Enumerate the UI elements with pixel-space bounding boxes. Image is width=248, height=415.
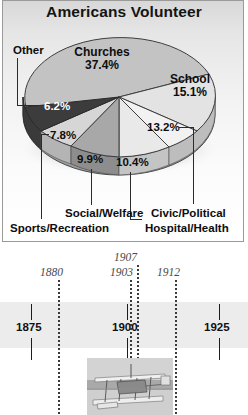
pie-label-civic-value: 13.2% (147, 121, 180, 133)
pie-label-hospital-value: 10.4% (116, 156, 149, 168)
timeline-tick-1900-top (127, 304, 128, 320)
leader-line-sports-stub (41, 134, 49, 135)
leader-line-hospital-horizontal (130, 219, 142, 220)
leader-line-civic-vertical (193, 127, 194, 204)
pie-label-school-value: 15.1% (161, 86, 219, 99)
pie-label-school: School 15.1% (161, 73, 219, 99)
biplane-photo-graphic (87, 358, 173, 415)
timeline-year-1875: 1875 (16, 321, 42, 333)
timeline-tick-1925-top (219, 304, 220, 320)
timeline-marker-label-1903: 1903 (110, 266, 133, 278)
category-label-hospital-health: Hospital/Health (145, 222, 229, 234)
timeline-tick-1925-bottom (219, 338, 220, 360)
pie-label-sports-value: 7.8% (50, 129, 76, 141)
pie-label-churches-value: 37.4% (63, 59, 141, 72)
timeline-marker-label-1912: 1912 (157, 266, 180, 278)
timeline-year-1925: 1925 (204, 321, 230, 333)
timeline-tick-1900-bottom (127, 338, 128, 360)
timeline-tick-1875-top (31, 304, 32, 320)
pie-label-school-name: School (161, 73, 219, 86)
leader-line-other-vertical (17, 58, 18, 105)
pie-label-churches-name: Churches (63, 46, 141, 59)
timeline: 1875 1900 1925 1880 1907 1903 1912 (0, 246, 248, 415)
category-label-social-welfare: Social/Welfare (65, 207, 143, 219)
pie-label-other: Other (13, 44, 44, 56)
timeline-marker-label-1880: 1880 (40, 266, 63, 278)
pie-label-churches: Churches 37.4% (63, 46, 141, 72)
timeline-marker-label-1907: 1907 (114, 251, 137, 263)
biplane-photo (87, 358, 173, 415)
timeline-marker-line-1912 (175, 280, 177, 415)
leader-line-social-vertical (91, 169, 92, 205)
category-label-civic-political: Civic/Political (151, 207, 226, 219)
pie-label-other-value: 6.2% (44, 100, 70, 112)
leader-line-sports-vertical (41, 134, 42, 219)
pie-chart-panel: Americans Volunteer (2, 0, 244, 242)
timeline-year-1900: 1900 (112, 321, 138, 333)
leader-line-other-horizontal (17, 105, 39, 106)
timeline-marker-line-1880 (58, 280, 60, 415)
category-label-sports-recreation: Sports/Recreation (10, 222, 109, 234)
page-title: Americans Volunteer (3, 3, 244, 21)
pie-label-social-value: 9.9% (77, 153, 103, 165)
leader-line-civic-stub (179, 127, 193, 128)
timeline-tick-1875-bottom (31, 338, 32, 360)
